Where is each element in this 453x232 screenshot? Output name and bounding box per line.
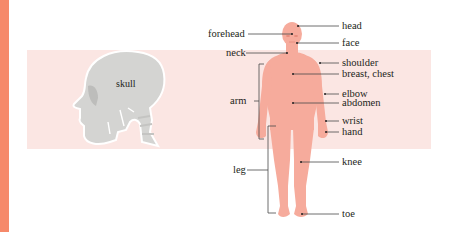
- label-breast-chest: breast, chest: [342, 68, 394, 80]
- label-leg: leg: [233, 164, 246, 176]
- label-face: face: [342, 37, 359, 49]
- label-neck: neck: [226, 47, 246, 59]
- label-head: head: [342, 20, 362, 32]
- label-hand: hand: [342, 126, 362, 138]
- label-abdomen: abdomen: [342, 97, 381, 109]
- label-forehead: forehead: [208, 28, 245, 40]
- label-knee: knee: [342, 156, 362, 168]
- human-body-illustration: [256, 22, 328, 217]
- label-arm: arm: [230, 95, 246, 107]
- body-parts-diagram: skull forehead neck arm leg head face sh…: [0, 0, 453, 232]
- skull-illustration: [73, 51, 164, 146]
- label-toe: toe: [342, 208, 355, 220]
- label-skull: skull: [116, 78, 135, 89]
